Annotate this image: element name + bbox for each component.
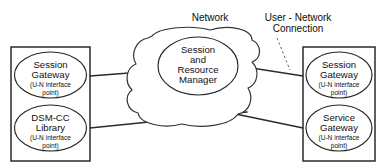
label-user-network-connection-line1: User - Network [265, 12, 333, 23]
node-left-dsm-cc-library-sub1: (U-N interface [30, 134, 71, 142]
user-network-connection-leader-icon [277, 38, 290, 70]
node-left-session-gateway-sub1: (U-N interface [30, 81, 71, 89]
node-right-service-gateway-line2: Gateway [320, 122, 358, 133]
node-right-session-gateway-sub2: point) [331, 89, 348, 97]
node-session-and-resource-manager-line4: Manager [179, 74, 218, 85]
network-architecture-diagram: Network User - Network Connection Sessio… [0, 0, 381, 166]
node-right-session-gateway-line2: Gateway [320, 69, 358, 80]
label-user-network-connection-line2: Connection [273, 23, 324, 34]
node-left-dsm-cc-library-line2: Library [36, 122, 66, 133]
diagram-canvas: Network User - Network Connection Sessio… [0, 0, 381, 166]
node-left-session-gateway-sub2: point) [42, 89, 59, 97]
node-right-service-gateway-sub1: (U-N interface [318, 134, 359, 142]
node-left-dsm-cc-library-sub2: point) [42, 142, 59, 150]
label-network: Network [192, 12, 230, 23]
node-right-service-gateway-sub2: point) [331, 142, 348, 150]
node-left-session-gateway-line2: Gateway [32, 69, 70, 80]
node-right-session-gateway-sub1: (U-N interface [318, 81, 359, 89]
